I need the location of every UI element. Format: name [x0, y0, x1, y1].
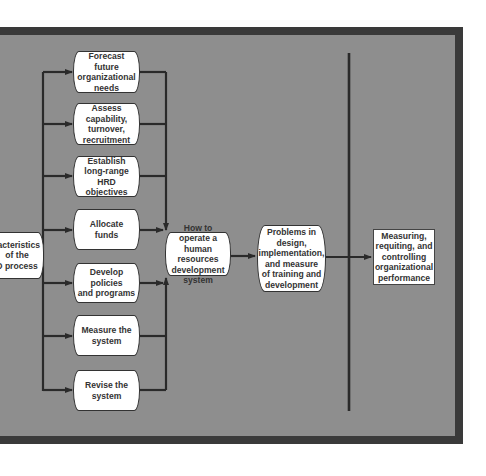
step-forecast-needs: Forecast future organizational needs: [73, 51, 140, 93]
step-measure-system: Measure the system: [73, 315, 140, 356]
problems-box: Problems in design, implementation, and …: [257, 225, 326, 292]
hrd-system-box: How to operate a human resources develop…: [165, 232, 231, 276]
step-label: Revise the system: [85, 380, 128, 401]
hrd-system-label: How to operate a human resources develop…: [167, 223, 229, 286]
step-label: Forecast future organizational needs: [77, 51, 136, 93]
step-assess-capability: Assess capability, turnover, recruitment: [73, 103, 140, 145]
characteristics-label: racteristics of the D process: [0, 240, 40, 272]
step-label: Allocate funds: [90, 219, 123, 240]
characteristics-box: racteristics of the D process: [0, 232, 44, 279]
step-develop-policies: Develop policies and programs: [73, 263, 140, 303]
step-establish-objectives: Establish long-range HRD objectives: [73, 156, 140, 197]
organizational-performance-label: Measuring, requiting, and controlling or…: [375, 231, 433, 284]
problems-label: Problems in design, implementation, and …: [259, 227, 325, 290]
organizational-performance-box: Measuring, requiting, and controlling or…: [373, 229, 435, 285]
step-label: Establish long-range HRD objectives: [77, 156, 136, 198]
step-revise-system: Revise the system: [73, 370, 140, 411]
step-label: Measure the system: [81, 325, 131, 346]
step-allocate-funds: Allocate funds: [73, 209, 140, 250]
step-label: Develop policies and programs: [77, 267, 136, 299]
step-label: Assess capability, turnover, recruitment: [83, 103, 130, 145]
